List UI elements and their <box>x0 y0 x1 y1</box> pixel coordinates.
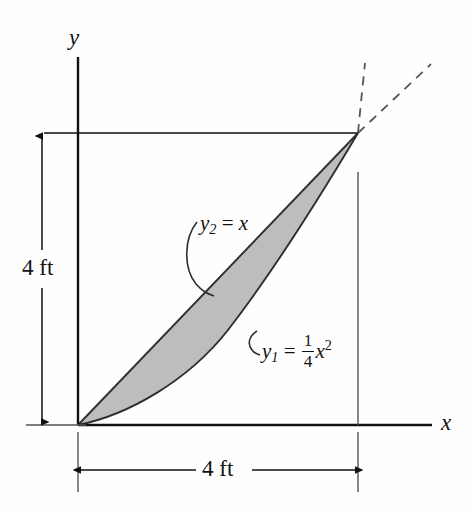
fraction-numerator: 1 <box>302 332 315 350</box>
equation-y1-equals: = <box>278 339 300 363</box>
parabola-dashed-extension <box>358 63 365 133</box>
dimension-label-vertical: 4 ft <box>22 256 53 279</box>
equation-y1-exponent: 2 <box>325 337 332 353</box>
equation-label-y1: y1 = 14x2 <box>262 332 332 371</box>
y-axis-label: y <box>69 26 79 49</box>
equation-label-y2: y2 = x <box>200 213 248 236</box>
equation-y2-rhs: x <box>239 211 248 235</box>
dimension-label-horizontal: 4 ft <box>202 457 233 480</box>
line-curve-y2 <box>78 133 358 425</box>
equation-y2-equals: = <box>216 211 238 235</box>
equation-y1-rhs: x <box>315 339 324 363</box>
x-axis-label: x <box>441 411 451 434</box>
fraction-denominator: 4 <box>302 353 315 371</box>
line-dashed-extension <box>358 64 431 133</box>
figure-container: y x 4 ft 4 ft y2 = x y1 = 14x2 <box>0 0 474 514</box>
leader-line-y1 <box>249 331 260 355</box>
equation-y2-variable: y <box>200 211 209 235</box>
equation-y1-variable: y <box>262 339 271 363</box>
diagram-canvas <box>0 0 474 514</box>
equation-y1-fraction: 14 <box>302 332 315 371</box>
